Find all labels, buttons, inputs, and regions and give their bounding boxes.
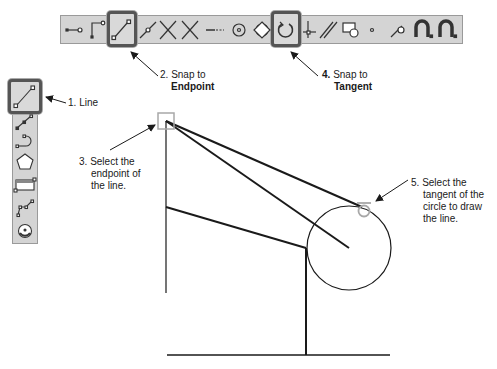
quadrant-icon[interactable] (254, 22, 270, 38)
step5-line1: Select the (422, 177, 466, 188)
step5-line2: tangent of the (411, 189, 484, 201)
insert-icon[interactable] (343, 23, 358, 37)
slanted-line[interactable] (166, 207, 306, 248)
step5-number: 5. (411, 177, 419, 188)
step4-line1: Snap to (333, 69, 367, 80)
circle-icon[interactable] (19, 225, 32, 238)
tangent-line[interactable] (166, 121, 362, 207)
corner-icon[interactable] (91, 21, 105, 38)
step1-number: 1. (68, 97, 76, 108)
snap-magnet-icon[interactable] (416, 21, 433, 38)
spline-icon[interactable] (17, 200, 34, 217)
drawing-canvas[interactable] (166, 121, 391, 355)
step3-line3: the line. (79, 180, 141, 192)
step2-line1: Snap to (171, 69, 205, 80)
intersection-icon[interactable] (160, 21, 176, 39)
step4-label: 4. Snap to Tangent (322, 69, 372, 93)
step5-label: 5. Select the tangent of the circle to d… (411, 177, 484, 225)
step5-arrow (376, 180, 408, 201)
polygon-icon[interactable] (17, 154, 33, 169)
step2-arrow (131, 52, 158, 76)
step2-line2: Endpoint (171, 81, 214, 92)
snap-settings-magnet-icon[interactable] (440, 21, 457, 38)
step3-label: 3. Select the endpoint of the line. (79, 156, 141, 192)
step3-line1: Select the (90, 156, 134, 167)
center-icon[interactable] (233, 24, 245, 36)
step4-line2: Tangent (334, 81, 372, 92)
step1-arrow (46, 97, 66, 103)
step4-number: 4. (322, 69, 330, 80)
step2-label: 2. Snap to Endpoint (160, 69, 214, 93)
midpoint-icon[interactable] (140, 22, 156, 38)
step4-arrow (291, 52, 318, 76)
nearest-icon[interactable] (391, 26, 404, 37)
step5-line4: the line. (411, 213, 484, 225)
perpendicular-icon[interactable] (303, 21, 316, 38)
step1-label: 1. Line (68, 97, 98, 109)
rectangle-icon[interactable] (14, 178, 36, 192)
step3-number: 3. (79, 156, 87, 167)
line-point-icon[interactable] (66, 28, 82, 32)
line-to-center[interactable] (166, 121, 349, 248)
tangent-snap-icon[interactable] (279, 22, 293, 37)
apparent-intersection-icon[interactable] (182, 21, 198, 39)
parallel-icon[interactable] (320, 22, 337, 38)
polyline-icon[interactable] (16, 115, 33, 130)
node-icon[interactable] (371, 29, 374, 32)
step3-line2: endpoint of (79, 168, 141, 180)
step3-arrow (110, 125, 155, 150)
step5-line3: circle to draw (411, 201, 484, 213)
step2-number: 2. (160, 69, 168, 80)
arc-icon[interactable] (16, 135, 31, 148)
line-tool-icon[interactable] (14, 86, 35, 108)
endpoint-snap-icon[interactable] (112, 20, 131, 40)
step1-text: Line (79, 97, 98, 108)
